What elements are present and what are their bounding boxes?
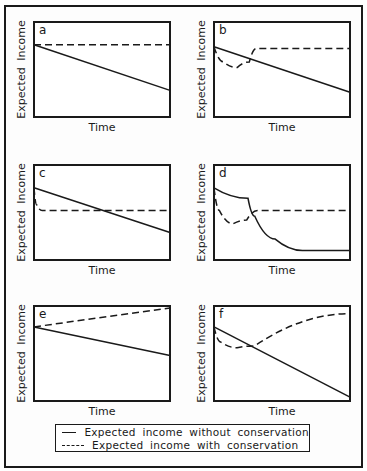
legend: Expected income without conservation Exp… [55, 424, 310, 452]
panel-e: eExpected IncomeTime [15, 304, 170, 418]
x-axis-label: Time [88, 121, 116, 134]
panel-c: cExpected IncomeTime [15, 163, 170, 277]
x-axis-label: Time [268, 405, 296, 418]
panel-letter: d [219, 166, 227, 180]
panel-a: aExpected IncomeTime [15, 20, 170, 134]
plot-frame [34, 22, 170, 117]
y-axis-label: Expected Income [195, 20, 208, 119]
legend-item-without-conservation: Expected income without conservation [62, 426, 309, 439]
plot-frame [34, 306, 170, 401]
solid-line-swatch-icon [62, 432, 76, 433]
y-axis-label: Expected Income [195, 304, 208, 403]
panels-canvas: aExpected IncomeTimebExpected IncomeTime… [0, 0, 367, 471]
plot-frame [34, 165, 170, 260]
x-axis-label: Time [268, 264, 296, 277]
plot-frame [214, 165, 350, 260]
panel-letter: c [39, 166, 46, 180]
x-axis-label: Time [88, 264, 116, 277]
y-axis-label: Expected Income [15, 304, 28, 403]
panel-d: dExpected IncomeTime [195, 163, 350, 277]
panel-letter: a [39, 23, 46, 37]
panel-letter: b [219, 23, 227, 37]
y-axis-label: Expected Income [15, 20, 28, 119]
legend-item-with-conservation: Expected income with conservation [62, 439, 309, 452]
legend-label: Expected income with conservation [92, 439, 299, 452]
y-axis-label: Expected Income [195, 163, 208, 262]
y-axis-label: Expected Income [15, 163, 28, 262]
x-axis-label: Time [268, 121, 296, 134]
legend-label: Expected income without conservation [84, 426, 309, 439]
dashed-line-swatch-icon [62, 445, 84, 446]
panel-letter: e [39, 307, 46, 321]
x-axis-label: Time [88, 405, 116, 418]
panel-b: bExpected IncomeTime [195, 20, 350, 134]
panel-f: fExpected IncomeTime [195, 304, 350, 418]
